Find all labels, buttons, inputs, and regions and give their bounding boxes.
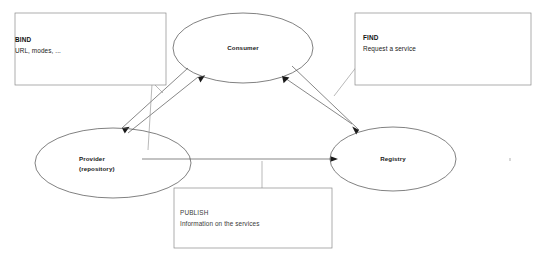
- annotation-box-publish[interactable]: [174, 188, 332, 248]
- annotation-find-title: FIND: [363, 34, 379, 41]
- connector-publish: [142, 156, 338, 161]
- diagram-canvas: Consumer Provider (repository) Registry …: [0, 0, 543, 267]
- node-provider-shape[interactable]: [35, 128, 191, 198]
- leader-line-bind-secondary: [148, 84, 152, 150]
- arrowhead-publish-to-registry: [331, 156, 339, 161]
- annotation-bind-title: BIND: [15, 36, 31, 43]
- node-provider-label-line1: Provider: [79, 155, 105, 162]
- connector-bind-line-up: [128, 77, 198, 133]
- connector-find: [282, 66, 359, 135]
- scan-artifact-speck: [509, 158, 511, 161]
- node-registry-label: Registry: [380, 155, 406, 162]
- annotation-publish-title: PUBLISH: [180, 209, 209, 216]
- connector-find-line-up: [282, 76, 352, 124]
- node-provider-label-line2: (repository): [79, 165, 115, 172]
- soa-diagram: Consumer Provider (repository) Registry …: [0, 0, 543, 267]
- node-consumer-label: Consumer: [227, 44, 259, 51]
- annotation-publish-subtitle: Information on the services: [180, 220, 259, 227]
- annotation-bind-subtitle: URL, modes, ...: [15, 47, 61, 54]
- connector-find-line-down: [292, 66, 359, 130]
- annotation-find-subtitle: Request a service: [363, 45, 416, 53]
